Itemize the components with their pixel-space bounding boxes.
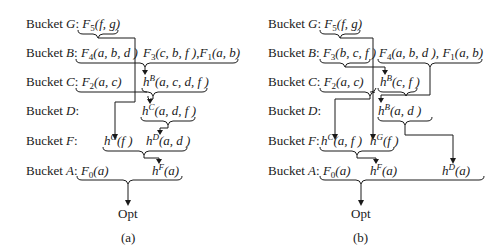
brace-a-c2 bbox=[142, 88, 207, 96]
bucket-c-row: Bucket C: F2(a, c) bbox=[268, 75, 364, 89]
wires-b bbox=[250, 0, 500, 252]
brace-b-b1 bbox=[320, 59, 370, 67]
bucket-d-h: hC(a, d, f ) bbox=[142, 104, 196, 118]
brace-a-b2 bbox=[145, 59, 238, 67]
wire-b-f bbox=[357, 155, 376, 161]
bucket-b-row: Bucket B: F3(b, c, f ) bbox=[268, 46, 376, 60]
wire-b-c bbox=[335, 96, 370, 136]
bucket-f-row: Bucket F: bbox=[268, 134, 320, 148]
caption-a: (a) bbox=[121, 230, 135, 246]
panel-b: Bucket G: F5(f, g) Bucket B: F3(b, c, f … bbox=[250, 0, 500, 252]
bucket-a-h3: hD(a) bbox=[442, 164, 470, 178]
caption-b: (b) bbox=[353, 230, 368, 246]
brace-a-d bbox=[141, 117, 195, 125]
bucket-d-h: hB(a, d ) bbox=[378, 104, 421, 118]
bucket-b-second: F4(a, b, d ), F1(a, b) bbox=[379, 46, 483, 60]
opt-label-a: Opt bbox=[118, 206, 138, 222]
panel-a: Bucket G: F5(f, g) Bucket B: F4(a, b, d … bbox=[0, 0, 250, 252]
bucket-f-h1: hG(f ) bbox=[104, 134, 133, 148]
wire-b-b1 bbox=[345, 67, 385, 72]
bucket-a-h: hF(a) bbox=[370, 164, 397, 178]
bucket-a-h: hF(a) bbox=[152, 164, 179, 178]
wire-a-c bbox=[150, 96, 153, 99]
bucket-c-h: hB(a, c, d, f ) bbox=[143, 75, 209, 89]
brace-b-b2 bbox=[378, 59, 482, 67]
bucket-f-row: Bucket F: bbox=[26, 134, 78, 148]
brace-b-c1 bbox=[320, 88, 375, 96]
brace-b-g bbox=[320, 30, 360, 38]
wire-b-d bbox=[405, 125, 453, 160]
bucket-b-row: Bucket B: F4(a, b, d ) bbox=[26, 46, 138, 60]
bucket-f-h2: hD(a, d ) bbox=[146, 134, 190, 148]
bucket-c-row: Bucket C: F2(a, c) bbox=[26, 75, 122, 89]
brace-a-f bbox=[103, 147, 187, 155]
bucket-d-row: Bucket D: bbox=[268, 104, 321, 118]
bucket-d-row: Bucket D: bbox=[26, 104, 79, 118]
bucket-a-row: Bucket A: F0(a) bbox=[268, 164, 351, 178]
bucket-c-h: hB(c, f ) bbox=[380, 75, 420, 89]
bucket-a-row: Bucket A: F0(a) bbox=[26, 164, 109, 178]
brace-b-d bbox=[378, 117, 432, 125]
bucket-f-h2: hG(f ) bbox=[370, 134, 399, 148]
opt-label-b: Opt bbox=[351, 206, 371, 222]
brace-b-f bbox=[320, 147, 394, 155]
bucket-g-row: Bucket G: F5(f, g) bbox=[268, 17, 362, 31]
bucket-b-second: F3(c, b, f ),F1(a, b) bbox=[143, 46, 240, 60]
brace-a-g bbox=[78, 30, 118, 38]
bucket-g-row: Bucket G: F5(f, g) bbox=[26, 17, 120, 31]
bucket-f-h1: hC(a, f ) bbox=[321, 134, 362, 148]
